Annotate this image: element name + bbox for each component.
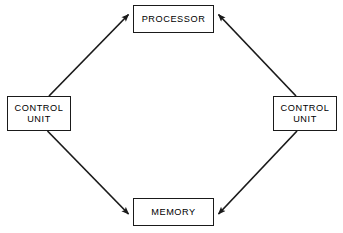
node-memory: MEMORY (133, 198, 214, 226)
node-processor-label: PROCESSOR (142, 14, 206, 25)
connector-control-unit-left-to-memory (48, 131, 129, 214)
connector-control-unit-right-to-memory (219, 131, 298, 214)
node-control-unit-right: CONTROL UNIT (273, 96, 337, 131)
connector-control-unit-left-to-processor (49, 15, 129, 97)
node-processor: PROCESSOR (133, 5, 214, 33)
connector-control-unit-right-to-processor (219, 15, 297, 97)
node-control-unit-left-label-line2: UNIT (27, 114, 51, 125)
node-control-unit-right-label-line2: UNIT (293, 114, 317, 125)
node-memory-label: MEMORY (151, 207, 195, 218)
node-control-unit-left: CONTROL UNIT (7, 96, 71, 131)
node-control-unit-right-label-line1: CONTROL (281, 103, 330, 114)
node-control-unit-left-label-line1: CONTROL (15, 103, 64, 114)
diagram-canvas: PROCESSOR CONTROL UNIT CONTROL UNIT MEMO… (0, 0, 343, 233)
